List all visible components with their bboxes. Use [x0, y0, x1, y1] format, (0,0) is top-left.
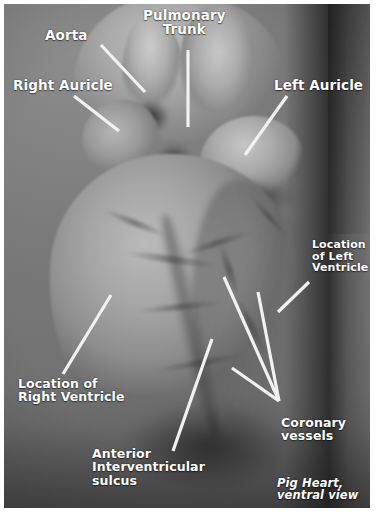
- label-anterior-interventricular-sulcus: Anterior Interventricular sulcus: [92, 447, 205, 487]
- leader-coronary-2: [258, 292, 279, 401]
- leader-left-auricle: [245, 96, 287, 155]
- label-location-of-right-ventricle: Location of Right Ventricle: [18, 377, 125, 404]
- leader-left-ventricle: [278, 282, 309, 312]
- leader-sulcus: [173, 339, 212, 451]
- label-coronary-vessels: Coronary vessels: [281, 416, 346, 443]
- label-pulmonary-trunk: Pulmonary Trunk: [143, 8, 226, 37]
- label-aorta: Aorta: [45, 28, 87, 42]
- anatomy-figure: AortaPulmonary TrunkRight AuricleLeft Au…: [0, 0, 378, 516]
- label-caption: Pig Heart, ventral view: [277, 477, 358, 501]
- leader-right-ventricle: [63, 295, 111, 374]
- label-left-auricle: Left Auricle: [274, 78, 363, 92]
- leader-right-auricle: [74, 96, 119, 131]
- label-location-of-left-ventricle: Location of Left Ventricle: [312, 239, 368, 274]
- label-right-auricle: Right Auricle: [13, 78, 113, 92]
